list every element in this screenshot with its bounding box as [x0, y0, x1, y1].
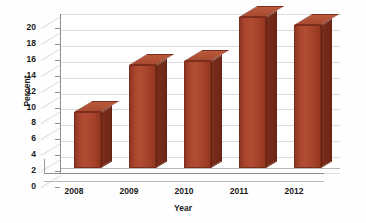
gridline-20	[60, 14, 340, 15]
y-tick-12	[55, 92, 60, 93]
y-tick-16	[55, 60, 60, 61]
y-tick-2	[55, 171, 60, 172]
y-tick-label-18: 18	[10, 39, 36, 48]
bar-2009[interactable]	[129, 65, 156, 168]
bar-2012[interactable]	[294, 25, 321, 168]
bar-side-face	[211, 54, 222, 168]
y-tick-6	[55, 139, 60, 140]
x-tick-label-2011: 2011	[216, 186, 262, 196]
bar-side-face	[266, 10, 277, 168]
y-tick-14	[55, 76, 60, 77]
bar-front-face	[239, 17, 266, 168]
bar-front-face	[74, 112, 101, 168]
y-tick-label-6: 6	[10, 134, 36, 143]
y-axis-front	[44, 159, 45, 173]
x-tick-label-2009: 2009	[106, 186, 152, 196]
bar-side-face	[101, 106, 112, 168]
y-tick-10	[55, 108, 60, 109]
x-tick-label-2008: 2008	[51, 186, 97, 196]
bar-front-face	[129, 65, 156, 168]
y-tick-label-2: 2	[10, 166, 36, 175]
y-axis-title: Percent	[22, 61, 32, 121]
x-axis-title: Year	[0, 203, 366, 213]
x-tick-label-2010: 2010	[161, 186, 207, 196]
y-tick-8	[55, 123, 60, 124]
y-tick-label-4: 4	[10, 150, 36, 159]
bar-2011[interactable]	[239, 17, 266, 168]
y-tick-label-0: 0	[10, 182, 36, 191]
y-axis	[60, 14, 61, 173]
x-tick-label-2012: 2012	[271, 186, 317, 196]
y-tick-20	[55, 28, 60, 29]
floor-front-edge	[44, 181, 324, 182]
y-tick-label-20: 20	[10, 23, 36, 32]
bar-side-face	[156, 58, 167, 168]
y-tick-18	[55, 44, 60, 45]
bar-2008[interactable]	[74, 112, 101, 168]
plot-area	[44, 14, 340, 182]
y-tick-4	[55, 155, 60, 156]
x-axis	[44, 173, 324, 174]
chart-floor	[44, 168, 340, 182]
bar-2010[interactable]	[184, 61, 211, 168]
bar-chart: 20 18 16 14 12 10 8 6 4 2 0 2008 2009 20…	[0, 0, 366, 223]
bar-front-face	[184, 61, 211, 168]
bar-side-face	[321, 18, 332, 168]
floor-back-edge	[60, 168, 340, 169]
bar-front-face	[294, 25, 321, 168]
